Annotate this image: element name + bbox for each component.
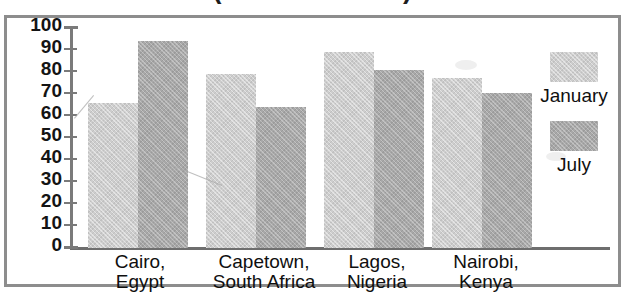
legend-swatch-january — [550, 52, 598, 82]
bar-january-nairobi — [432, 78, 482, 248]
x-category-line1: Cairo, — [80, 252, 200, 272]
legend-swatch-july — [550, 121, 598, 151]
legend-item-january: January — [528, 52, 620, 107]
bar-january-lagos — [324, 52, 374, 248]
plot-area: 100 90 80 70 60 50 40 30 20 10 0 — [0, 0, 625, 295]
legend-item-july: July — [528, 121, 620, 176]
x-category-label-cairo: Cairo, Egypt — [80, 252, 200, 292]
bar-july-cairo — [138, 41, 188, 248]
bar-july-capetown — [256, 107, 306, 248]
chart-legend: January July — [528, 52, 620, 190]
x-category-label-capetown: Capetown, South Africa — [196, 252, 332, 292]
x-category-line1: Lagos, — [322, 252, 432, 272]
bar-july-nairobi — [482, 93, 532, 248]
x-category-line1: Nairobi, — [428, 252, 544, 272]
bar-january-capetown — [206, 74, 256, 248]
bar-january-cairo — [88, 103, 138, 248]
x-category-line2: South Africa — [196, 272, 332, 292]
x-category-line2: Kenya — [428, 272, 544, 292]
x-category-line2: Egypt — [80, 272, 200, 292]
bar-july-lagos — [374, 70, 424, 248]
x-category-line1: Capetown, — [196, 252, 332, 272]
x-category-label-lagos: Lagos, Nigeria — [322, 252, 432, 292]
chart-screenshot: (in millimeters) 100 90 80 70 60 50 40 3… — [0, 0, 625, 295]
legend-label-july: July — [528, 154, 620, 176]
x-category-label-nairobi: Nairobi, Kenya — [428, 252, 544, 292]
x-category-line2: Nigeria — [322, 272, 432, 292]
legend-label-january: January — [528, 85, 620, 107]
